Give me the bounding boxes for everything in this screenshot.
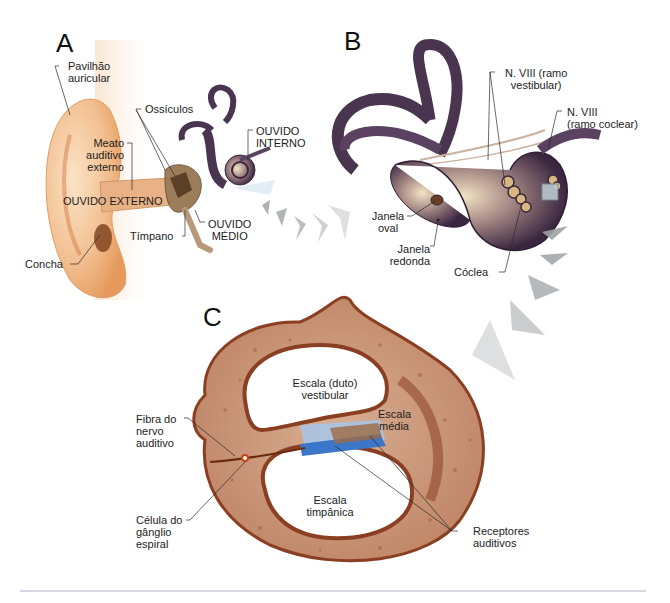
label-janela-oval: Janelaoval (368, 210, 408, 234)
label-pavilhao-auricular: Pavilhãoauricular (68, 60, 110, 84)
label-timpano: Tímpano (130, 230, 173, 242)
label-n8-ramo-coclear: N. VIII(ramo coclear) (567, 106, 638, 130)
label-escala-vestibular: Escala (duto)vestibular (270, 377, 380, 401)
ear-anatomy-figure: A B C Pavilhãoauricular Ossículos Meatoa… (0, 0, 670, 603)
label-ouvido-interno: OUVIDOINTERNO (256, 125, 306, 149)
label-coclea: Cóclea (454, 266, 488, 278)
label-meato-auditivo-externo: Meatoauditivoexterno (84, 137, 124, 173)
label-receptores-auditivos: Receptoresauditivos (473, 525, 529, 549)
panel-letter-c: C (203, 304, 222, 330)
label-escala-timpanica: Escalatimpânica (290, 494, 370, 518)
label-janela-redonda: Janelaredonda (382, 243, 430, 267)
label-ouvido-medio: OUVIDOMÉDIO (208, 218, 251, 242)
label-ouvido-externo: OUVIDO EXTERNO (63, 195, 163, 207)
label-ossiculos: Ossículos (145, 103, 193, 115)
label-n8-ramo-vestibular: N. VIII (ramovestibular) (505, 67, 567, 91)
panel-letter-a: A (56, 30, 73, 56)
label-escala-media: Escalamédia (378, 408, 410, 432)
panel-letter-b: B (344, 28, 361, 54)
label-celula-ganglio-espiral: Célula dogânglioespiral (136, 514, 182, 550)
label-concha: Concha (25, 258, 63, 270)
arrows-a-to-b (262, 200, 350, 242)
label-fibra-nervo-auditivo: Fibra donervoauditivo (136, 413, 176, 449)
panel-c-art (194, 297, 484, 561)
